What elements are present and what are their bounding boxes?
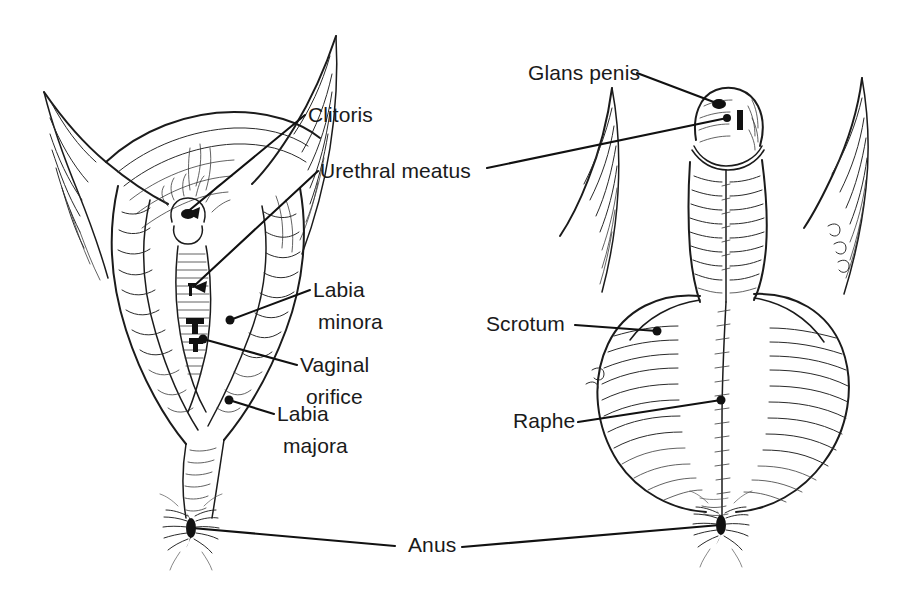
raphe-leader-dot: [717, 396, 726, 405]
label-labia-minora-line1: Labia: [313, 278, 365, 301]
label-scrotum: Scrotum: [486, 312, 565, 335]
anatomy-figure: Clitoris Urethral meatus Labia minora Va…: [0, 0, 906, 594]
urethral-meatus-male-leader-dot: [723, 114, 731, 122]
scrotum-leader-dot: [653, 327, 662, 336]
label-glans-penis: Glans penis: [528, 61, 640, 84]
label-clitoris: Clitoris: [308, 103, 373, 126]
labia-minora-leader-dot: [226, 316, 235, 325]
label-urethral-meatus: Urethral meatus: [320, 159, 471, 182]
label-raphe: Raphe: [513, 409, 575, 432]
diagram-canvas: Clitoris Urethral meatus Labia minora Va…: [0, 0, 906, 594]
label-labia-majora-line2: majora: [283, 434, 348, 457]
glans-penis-leader-dot: [715, 100, 724, 109]
vaginal-orifice-leader-dot: [199, 335, 208, 344]
label-labia-minora-line2: minora: [318, 310, 383, 333]
labia-majora-leader-dot: [225, 396, 234, 405]
label-labia-majora-line1: Labia: [277, 402, 329, 425]
label-vaginal-orifice-line1: Vaginal: [300, 353, 369, 376]
label-anus: Anus: [408, 533, 456, 556]
